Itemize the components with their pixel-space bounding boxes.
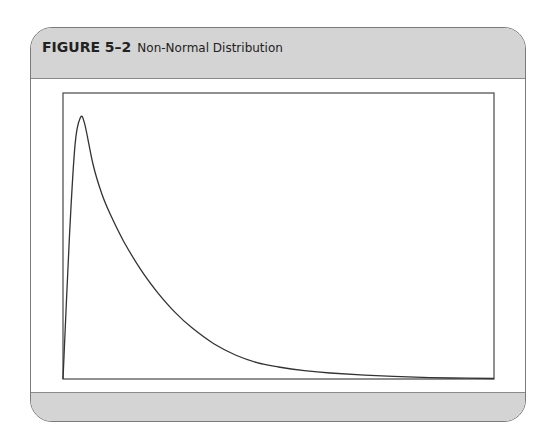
chart-svg [0,0,558,447]
plot-area [63,93,494,379]
distribution-curve [63,116,494,379]
